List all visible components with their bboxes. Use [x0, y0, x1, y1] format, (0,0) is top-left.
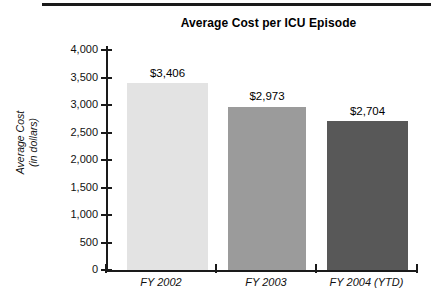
y-axis-tick-label: 4,000: [40, 44, 98, 55]
y-axis-tick: [101, 159, 112, 161]
y-axis-tick-label: 2,000: [40, 154, 98, 165]
bar: [127, 83, 208, 270]
x-axis-tick: [215, 264, 217, 273]
y-axis-title-line1: Average Cost: [14, 83, 27, 203]
y-axis-tick-label: 3,000: [40, 99, 98, 110]
x-axis-tick: [416, 264, 418, 273]
y-axis-tick-label: 0: [40, 264, 98, 275]
x-axis-category-label: FY 2003: [216, 276, 316, 289]
bar: [228, 107, 306, 271]
x-axis-line: [106, 270, 417, 272]
x-axis-category-label: FY 2004 (YTD): [316, 276, 417, 289]
x-axis-category-label: FY 2002: [106, 276, 216, 289]
y-axis-tick: [101, 187, 112, 189]
y-axis-tick-label: 1,500: [40, 182, 98, 193]
bar-value-label: $3,406: [107, 67, 228, 79]
y-axis-title: Average Cost (in dollars): [14, 83, 39, 203]
y-axis-title-line2: (in dollars): [26, 83, 39, 203]
y-axis-tick: [101, 242, 112, 244]
y-axis-tick: [101, 49, 112, 51]
y-axis-tick-label: 2,500: [40, 127, 98, 138]
bar-value-label: $2,704: [307, 105, 428, 117]
y-axis-tick-label: 500: [40, 237, 98, 248]
x-axis-tick: [105, 264, 107, 273]
bar-chart-plot-area: Average Cost (in dollars) 4,0003,5003,00…: [0, 0, 431, 305]
y-axis-tick: [101, 132, 112, 134]
bar: [327, 121, 408, 270]
bar-value-label: $2,973: [208, 90, 326, 102]
y-axis-tick: [101, 214, 112, 216]
y-axis-tick-label: 1,000: [40, 209, 98, 220]
x-axis-tick: [315, 264, 317, 273]
y-axis-tick-label: 3,500: [40, 72, 98, 83]
y-axis-tick: [101, 104, 112, 106]
